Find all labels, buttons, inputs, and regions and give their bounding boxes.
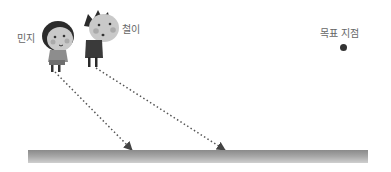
cheolyi-path-arrow [96, 68, 225, 150]
cheolyi-label: 철이 [122, 21, 140, 36]
goal-point-marker [340, 44, 347, 51]
minji-character-icon [42, 21, 74, 72]
minji-label: 민지 [17, 30, 35, 45]
cheolyi-character-icon [84, 10, 119, 67]
goal-point-label: 목표 지점 [320, 25, 359, 40]
ground-surface [28, 150, 368, 163]
